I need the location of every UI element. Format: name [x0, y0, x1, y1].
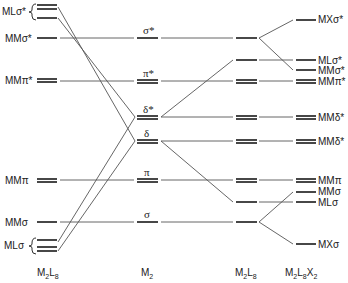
column-label-m2: M2: [141, 267, 153, 280]
brace-ml-sigma-star: [29, 4, 36, 20]
label-mm-pi-star: MMπ*: [5, 75, 33, 86]
label-sigma-star: σ*: [143, 24, 154, 36]
col3-levels: [236, 38, 257, 222]
label-pi-star: π*: [143, 67, 154, 79]
label-mm-sigma: MMσ: [5, 217, 29, 228]
label-delta: δ: [144, 127, 149, 139]
label-ml-sigma-r: MLσ: [318, 197, 339, 208]
mo-diagram: MLσ* MMσ* MMπ* MMπ MMσ MLσ σ* π* δ* δ π …: [0, 0, 348, 283]
brace-ml-sigma: [29, 238, 36, 254]
correlation-lines: [58, 7, 293, 251]
column-label-m2l8-right: M2L8: [235, 267, 257, 280]
label-mm-pi-r: MMπ: [318, 175, 342, 186]
label-mm-delta-star-2: MMδ*: [318, 136, 344, 147]
label-mm-delta-star-1: MMδ*: [318, 112, 344, 123]
label-mx-sigma: MXσ: [318, 239, 340, 250]
label-mx-sigma-star: MXσ*: [318, 14, 343, 25]
label-ml-sigma-star: MLσ*: [2, 6, 26, 17]
column-label-m2l8-left: M2L8: [37, 267, 59, 280]
column-label-m2l8x2: M2L8X2: [285, 267, 317, 280]
label-mm-sigma-star: MMσ*: [5, 33, 32, 44]
label-sigma: σ: [144, 208, 150, 220]
col1-levels: [37, 5, 57, 251]
label-delta-star: δ*: [143, 103, 154, 115]
label-mm-pi-star-r: MMπ*: [318, 76, 346, 87]
label-mm-pi: MMπ: [5, 175, 29, 186]
label-ml-sigma: MLσ: [4, 240, 25, 251]
label-mm-sigma-r: MMσ: [318, 186, 342, 197]
label-pi: π: [144, 166, 150, 178]
label-mm-sigma-star-r: MMσ*: [318, 65, 345, 76]
col4-levels: [296, 20, 316, 244]
